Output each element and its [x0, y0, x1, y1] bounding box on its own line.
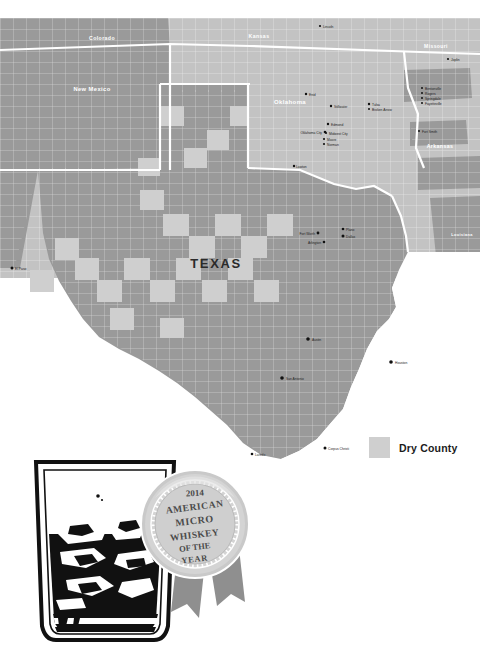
city-label-bentonville: Bentonville — [425, 87, 441, 91]
city-label-dallas: Dallas — [346, 235, 356, 239]
city-label-tulsa: Tulsa — [372, 103, 380, 107]
city-label-fort-worth: Fort Worth — [299, 232, 315, 236]
poster-canvas: Colorado Kansas Missouri New Mexico Okla… — [0, 0, 480, 656]
map-legend: Dry County — [369, 437, 458, 458]
city-label-broken-arrow: Broken Arrow — [372, 108, 392, 112]
city-label-enid: Enid — [309, 93, 316, 97]
state-label-new-mexico: New Mexico — [73, 86, 110, 92]
city-label-houston: Houston — [395, 361, 407, 365]
city-label-plano: Plano — [346, 228, 355, 232]
city-label-norman: Norman — [327, 143, 339, 147]
city-label-oklahoma-city: Oklahoma City — [300, 131, 322, 135]
award-medal: 2014 AMERICAN MICRO WHISKEY OF THE YEAR — [133, 470, 268, 635]
texas-dry-county-map: Colorado Kansas Missouri New Mexico Okla… — [0, 18, 480, 473]
city-label-midwest-city: Midwest City — [329, 132, 348, 136]
city-label-san-antonio: San Antonio — [286, 377, 304, 381]
city-label-arlington: Arlington — [308, 241, 321, 245]
city-label-stillwater: Stillwater — [334, 105, 348, 109]
city-label-corpus-christi: Corpus Christi — [328, 447, 349, 451]
city-label-joplin: Joplin — [451, 58, 460, 62]
state-label-colorado: Colorado — [89, 35, 115, 41]
city-label-lawton: Lawton — [296, 165, 307, 169]
state-label-missouri: Missouri — [424, 43, 448, 49]
city-label-lincoln: Lincoln — [323, 25, 334, 29]
state-label-texas: TEXAS — [190, 256, 241, 271]
city-label-el-paso: El Paso — [15, 267, 27, 271]
city-label-edmond: Edmond — [331, 123, 343, 127]
bubble-small — [101, 499, 103, 501]
state-label-louisiana: Louisiana — [451, 233, 473, 237]
medal-year: 2014 — [186, 488, 205, 499]
medal-svg: 2014 AMERICAN MICRO WHISKEY OF THE YEAR — [133, 470, 268, 635]
city-label-springdale: Springdale — [425, 97, 441, 101]
state-label-kansas: Kansas — [249, 33, 270, 39]
bubble — [96, 494, 100, 498]
city-label-moore: Moore — [327, 138, 337, 142]
state-label-arkansas: Arkansas — [427, 143, 454, 149]
legend-label-dry-county: Dry County — [399, 442, 458, 454]
city-label-rogers: Rogers — [425, 92, 436, 96]
city-label-austin: Austin — [312, 338, 321, 342]
city-label-fort-smith: Fort Smith — [422, 130, 437, 134]
legend-swatch-dry-county — [369, 437, 390, 458]
city-label-fayetteville: Fayetteville — [425, 102, 442, 106]
map-svg: Colorado Kansas Missouri New Mexico Okla… — [0, 18, 480, 473]
state-label-oklahoma: Oklahoma — [274, 99, 306, 105]
